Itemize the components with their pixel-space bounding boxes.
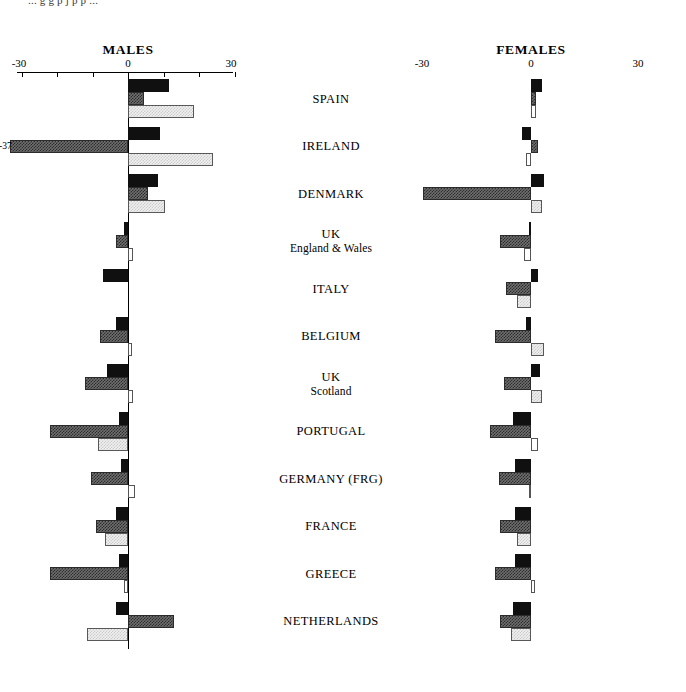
bar-females-6-0 bbox=[531, 364, 540, 377]
country-label-sub: England & Wales bbox=[258, 241, 404, 255]
bar-males-9-0 bbox=[116, 507, 128, 520]
country-label-belgium: BELGIUM bbox=[258, 329, 404, 343]
country-label-portugal: PORTUGAL bbox=[258, 424, 404, 438]
bar-males-9-2 bbox=[105, 533, 128, 546]
country-label-main: UK bbox=[322, 227, 341, 241]
bar-females-11-2 bbox=[511, 628, 531, 641]
bar-females-3-0 bbox=[529, 222, 531, 235]
bar-males-7-2 bbox=[98, 438, 128, 451]
axis-tick-males--20 bbox=[57, 72, 58, 77]
country-label-ireland: IRELAND bbox=[258, 139, 404, 153]
bar-females-5-2 bbox=[531, 343, 544, 356]
axis-tick-males-20 bbox=[199, 72, 200, 77]
country-label-main: SPAIN bbox=[313, 92, 350, 106]
bar-females-6-2 bbox=[531, 390, 542, 403]
axis-label-females-zero: 0 bbox=[511, 57, 551, 69]
bar-males-1-1 bbox=[10, 140, 128, 153]
bar-males-1-2 bbox=[128, 153, 213, 166]
bar-males-7-1 bbox=[50, 425, 128, 438]
country-label-main: GREECE bbox=[305, 567, 356, 581]
bar-males-5-1 bbox=[100, 330, 128, 343]
bar-males-11-2 bbox=[87, 628, 128, 641]
bar-males-6-2 bbox=[128, 390, 133, 403]
axis-tick-males-30 bbox=[235, 72, 236, 77]
country-labels-column: SPAINIRELANDDENMARKUKEngland & WalesITAL… bbox=[258, 0, 404, 692]
bar-males-6-0 bbox=[107, 364, 128, 377]
bar-males-2-2 bbox=[128, 200, 165, 213]
bar-females-0-2 bbox=[531, 105, 536, 118]
bar-males-11-0 bbox=[116, 602, 128, 615]
panel-males: MALES -30 0 30 -37 bbox=[0, 0, 258, 692]
bar-males-5-0 bbox=[116, 317, 128, 330]
bar-females-7-0 bbox=[513, 412, 531, 425]
bar-males-3-1 bbox=[116, 235, 128, 248]
country-label-main: GERMANY (FRG) bbox=[279, 472, 383, 486]
bar-males-3-0 bbox=[124, 222, 128, 235]
bar-females-1-1 bbox=[531, 140, 538, 153]
country-label-main: DENMARK bbox=[298, 187, 364, 201]
bar-males-0-0 bbox=[128, 79, 169, 92]
bar-females-11-0 bbox=[513, 602, 531, 615]
bar-females-11-1 bbox=[500, 615, 531, 628]
country-label-france: FRANCE bbox=[258, 519, 404, 533]
panel-title-females: FEMALES bbox=[471, 42, 591, 58]
bar-females-10-1 bbox=[495, 567, 531, 580]
country-label-uk-england-wales: UKEngland & Wales bbox=[258, 227, 404, 255]
bar-females-10-0 bbox=[515, 554, 531, 567]
country-label-main: IRELAND bbox=[302, 139, 360, 153]
bar-females-1-0 bbox=[522, 127, 531, 140]
bar-females-7-1 bbox=[490, 425, 531, 438]
bar-females-8-1 bbox=[499, 472, 531, 485]
country-label-uk-scotland: UKScotland bbox=[258, 370, 404, 398]
bar-males-8-0 bbox=[121, 459, 128, 472]
bar-females-8-0 bbox=[515, 459, 531, 472]
country-label-main: NETHERLANDS bbox=[283, 614, 378, 628]
country-label-netherlands: NETHERLANDS bbox=[258, 614, 404, 628]
axis-tick-males-10 bbox=[164, 72, 165, 77]
panel-females: FEMALES -30 0 30 bbox=[404, 0, 686, 692]
bar-males-11-1 bbox=[128, 615, 174, 628]
axis-tick-males--30 bbox=[22, 72, 23, 77]
country-label-main: BELGIUM bbox=[301, 329, 361, 343]
bar-males-4-0 bbox=[103, 269, 128, 282]
country-label-main: ITALY bbox=[312, 282, 349, 296]
bar-males-10-0 bbox=[119, 554, 128, 567]
bar-males-5-2 bbox=[128, 343, 132, 356]
axis-tick-males--10 bbox=[93, 72, 94, 77]
bar-males-1-0 bbox=[128, 127, 160, 140]
bar-females-6-1 bbox=[504, 377, 531, 390]
axis-label-females-min: -30 bbox=[402, 57, 442, 69]
bar-males-7-0 bbox=[119, 412, 128, 425]
bar-females-2-1 bbox=[423, 187, 531, 200]
bar-females-4-2 bbox=[517, 295, 531, 308]
bar-females-10-2 bbox=[531, 580, 535, 593]
country-label-spain: SPAIN bbox=[258, 92, 404, 106]
bar-females-7-2 bbox=[531, 438, 538, 451]
bar-value-label: -37 bbox=[0, 141, 12, 151]
bar-females-3-2 bbox=[524, 248, 531, 261]
bar-females-2-2 bbox=[531, 200, 542, 213]
bar-females-9-0 bbox=[515, 507, 531, 520]
bar-males-6-1 bbox=[85, 377, 128, 390]
panel-title-males: MALES bbox=[68, 42, 188, 58]
bar-females-5-0 bbox=[526, 317, 531, 330]
bar-females-4-0 bbox=[531, 269, 538, 282]
country-label-germany-frg: GERMANY (FRG) bbox=[258, 472, 404, 486]
bar-females-9-1 bbox=[500, 520, 531, 533]
bar-males-10-1 bbox=[50, 567, 128, 580]
bar-females-1-2 bbox=[526, 153, 531, 166]
bar-females-2-0 bbox=[531, 174, 544, 187]
axis-label-males-zero: 0 bbox=[108, 57, 148, 69]
bar-males-10-2 bbox=[124, 580, 128, 593]
bar-males-0-1 bbox=[128, 92, 144, 105]
country-label-main: PORTUGAL bbox=[296, 424, 365, 438]
bar-females-5-1 bbox=[495, 330, 531, 343]
bar-males-3-2 bbox=[128, 248, 133, 261]
axis-line-males bbox=[17, 72, 233, 73]
axis-label-males-min: -30 bbox=[0, 57, 39, 69]
country-label-main: FRANCE bbox=[305, 519, 357, 533]
country-label-denmark: DENMARK bbox=[258, 187, 404, 201]
country-label-italy: ITALY bbox=[258, 282, 404, 296]
bar-females-3-1 bbox=[500, 235, 531, 248]
bar-females-8-2 bbox=[529, 485, 531, 498]
